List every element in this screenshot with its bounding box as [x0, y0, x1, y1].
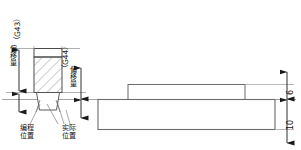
caption-programmed-position: 编程 位置 [10, 124, 44, 140]
dimension-value-step-height: 6 [286, 90, 295, 95]
tool-length-compensation-drawing [0, 0, 301, 150]
label-offset-right: 偏移量 [68, 66, 76, 87]
label-offset-left: 偏移量 [8, 45, 16, 66]
workpiece-upper-step [128, 85, 245, 100]
workpiece [98, 85, 275, 130]
workpiece-base-block [98, 100, 275, 130]
caption-programmed-line2: 位置 [10, 132, 44, 140]
caption-actual-position: 实际 位置 [52, 124, 86, 140]
caption-actual-line2: 位置 [52, 132, 86, 140]
dimension-value-base-height: 10 [286, 120, 295, 130]
tool-body [34, 49, 62, 113]
label-g43: （G43） [14, 15, 22, 44]
technical-drawing-canvas: （G43） 偏移量 （G44） 偏移量 编程 位置 实际 位置 6 10 [0, 0, 301, 150]
caption-actual-line1: 实际 [52, 124, 86, 132]
caption-programmed-line1: 编程 [10, 124, 44, 132]
